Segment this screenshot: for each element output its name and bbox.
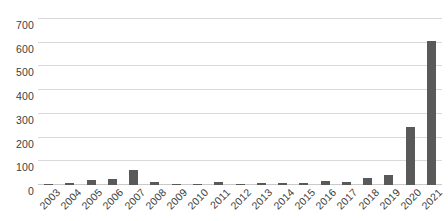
bar: [87, 180, 96, 185]
x-tick-label: 2011: [207, 186, 232, 211]
bar: [44, 184, 53, 185]
x-tick-label: 2014: [270, 186, 296, 212]
bar: [278, 183, 287, 185]
x-tick-label: 2004: [58, 186, 84, 212]
x-tick-label: 2010: [185, 186, 211, 212]
bar: [342, 182, 351, 185]
bar: [65, 183, 74, 185]
x-tick-label: 2021: [419, 186, 445, 212]
bar: [108, 179, 117, 185]
bar: [257, 183, 266, 185]
x-tick-label: 2008: [143, 186, 169, 212]
x-tick-label: 2019: [377, 186, 403, 212]
x-tick-label: 2016: [313, 186, 339, 212]
bar: [172, 184, 181, 185]
bar: [427, 41, 436, 185]
x-tick-label: 2020: [398, 186, 424, 212]
x-tick-label: 2006: [100, 186, 126, 212]
x-tick-label: 2017: [334, 186, 360, 212]
x-tick-label: 2009: [164, 186, 190, 212]
x-tick-label: 2012: [228, 186, 254, 212]
x-tick-label: 2018: [355, 186, 381, 212]
bar: [236, 184, 245, 185]
bar: [406, 127, 415, 185]
y-axis-tick-labels: 0100200300400500600700: [0, 19, 34, 185]
bar: [214, 182, 223, 185]
x-tick-label: 2005: [79, 186, 105, 212]
bar: [384, 175, 393, 185]
bar: [299, 183, 308, 185]
bar: [321, 181, 330, 185]
bar: [150, 182, 159, 185]
bar-chart: 0100200300400500600700 20032004200520062…: [0, 0, 448, 221]
x-tick-label: 2015: [292, 186, 318, 212]
bar-series: [38, 19, 442, 185]
plot-area: [38, 19, 442, 185]
bar: [129, 170, 138, 185]
bar: [363, 178, 372, 185]
x-tick-label: 2003: [37, 186, 63, 212]
x-tick-label: 2007: [122, 186, 148, 212]
x-tick-label: 2013: [249, 186, 275, 212]
x-axis-tick-labels: 2003200420052006200720082009201020112012…: [38, 186, 442, 221]
bar: [193, 184, 202, 185]
